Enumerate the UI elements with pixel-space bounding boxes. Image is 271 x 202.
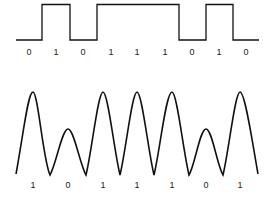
- digital-bit-label: 0: [189, 47, 194, 57]
- digital-bit-label: 1: [134, 47, 139, 57]
- analog-bit-label: 0: [65, 180, 70, 190]
- digital-bit-label: 1: [162, 47, 167, 57]
- digital-bit-label: 1: [216, 47, 221, 57]
- digital-bit-label: 0: [26, 47, 31, 57]
- digital-bit-label: 0: [243, 47, 248, 57]
- digital-bit-labels: 010111010: [26, 47, 248, 57]
- analog-bit-label: 1: [30, 180, 35, 190]
- analog-modulated-wave: [16, 92, 258, 175]
- digital-square-wave: [16, 5, 259, 41]
- digital-bit-label: 1: [53, 47, 58, 57]
- analog-bit-label: 0: [203, 180, 208, 190]
- digital-bit-label: 0: [80, 47, 85, 57]
- analog-bit-label: 1: [134, 180, 139, 190]
- analog-bit-label: 1: [169, 180, 174, 190]
- digital-bit-label: 1: [108, 47, 113, 57]
- analog-bit-labels: 1011101: [30, 180, 242, 190]
- analog-bit-label: 1: [100, 180, 105, 190]
- modulation-diagram: 010111010 1011101: [0, 0, 271, 202]
- analog-bit-label: 1: [237, 180, 242, 190]
